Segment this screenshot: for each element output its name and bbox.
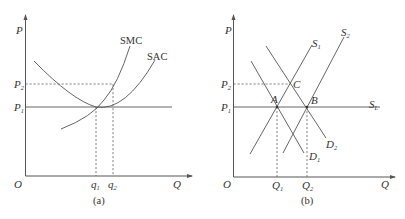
q2-label: Q2 <box>302 179 314 192</box>
s1-supply-curve <box>250 45 312 154</box>
x-axis-label: Q <box>173 178 181 190</box>
p2-label: P2 <box>220 78 232 91</box>
q1-label: Q1 <box>272 179 283 192</box>
d1-label: D1 <box>308 150 320 163</box>
p2-label: P2 <box>13 78 25 91</box>
y-axis-label: P <box>15 24 23 36</box>
y-axis-label: P <box>224 24 232 36</box>
panel-b-caption: (b) <box>301 195 314 207</box>
origin-label: O <box>14 178 22 190</box>
point-a-marker <box>276 106 279 109</box>
panel-a: P P2 P1 O q1 q2 Q SMC SAC (a) <box>13 15 192 207</box>
origin-label: O <box>223 178 231 190</box>
smc-curve <box>61 46 130 129</box>
p1-label: P1 <box>13 101 24 114</box>
point-b-marker <box>306 106 309 109</box>
panel-a-caption: (a) <box>93 195 105 207</box>
point-c-label: C <box>293 78 301 90</box>
panel-b: P P2 P1 O Q1 Q2 Q S1 S2 SL D2 D1 A B C (… <box>220 15 395 207</box>
p1-label: P1 <box>220 101 231 114</box>
q1-label: q1 <box>91 178 100 191</box>
d2-label: D2 <box>325 138 338 151</box>
s2-label: S2 <box>341 26 351 39</box>
s1-label: S1 <box>312 37 321 50</box>
d2-demand-curve <box>266 46 326 138</box>
sac-label: SAC <box>147 51 167 62</box>
smc-label: SMC <box>120 35 142 46</box>
sl-label: SL <box>369 98 379 111</box>
point-b-label: B <box>311 94 318 106</box>
point-a-label: A <box>270 93 278 105</box>
diagram-canvas: P P2 P1 O q1 q2 Q SMC SAC (a) P P2 <box>0 0 405 219</box>
q2-label: q2 <box>108 178 118 191</box>
x-axis-label: Q <box>381 178 389 190</box>
